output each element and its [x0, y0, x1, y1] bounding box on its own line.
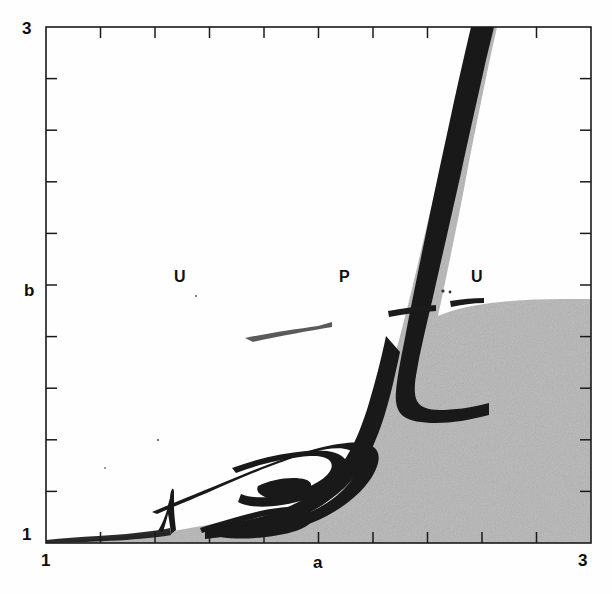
y-axis-min-label: 1	[22, 525, 31, 545]
scan-grain-overlay	[46, 27, 591, 543]
x-axis-title: a	[313, 553, 322, 573]
region-label-u-right: U	[471, 268, 483, 286]
region-shapes	[46, 27, 591, 543]
y-axis-max-label: 3	[22, 19, 31, 39]
x-axis-min-label: 1	[41, 551, 50, 571]
x-axis-max-label: 3	[578, 551, 587, 571]
region-label-u-left: U	[174, 268, 186, 286]
y-axis-title: b	[24, 281, 34, 301]
region-label-p: P	[339, 268, 350, 286]
figure-canvas: 3 1 1 3 b a U P U	[0, 0, 612, 594]
phase-diagram-plot	[0, 0, 612, 594]
